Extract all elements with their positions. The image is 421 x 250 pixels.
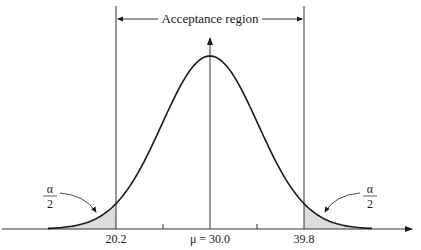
right-tail-shaded-region: [304, 204, 372, 229]
svg-text:2: 2: [47, 197, 53, 211]
left-pointer-arrow: [60, 193, 96, 212]
normal-distribution-diagram: Acceptance region 20.2 μ = 30.0 39.8 α 2…: [0, 0, 421, 250]
svg-text:2: 2: [367, 197, 373, 211]
left-tail-shaded-region: [48, 204, 116, 229]
left-alpha-half-label: α 2: [43, 182, 57, 211]
svg-text:α: α: [367, 182, 374, 196]
svg-text:α: α: [47, 182, 54, 196]
acceptance-region-label: Acceptance region: [161, 11, 259, 26]
lower-critical-label: 20.2: [106, 232, 127, 246]
mean-label: μ = 30.0: [190, 232, 230, 246]
upper-critical-label: 39.8: [294, 232, 315, 246]
right-pointer-arrow: [325, 193, 360, 212]
right-alpha-half-label: α 2: [363, 182, 377, 211]
